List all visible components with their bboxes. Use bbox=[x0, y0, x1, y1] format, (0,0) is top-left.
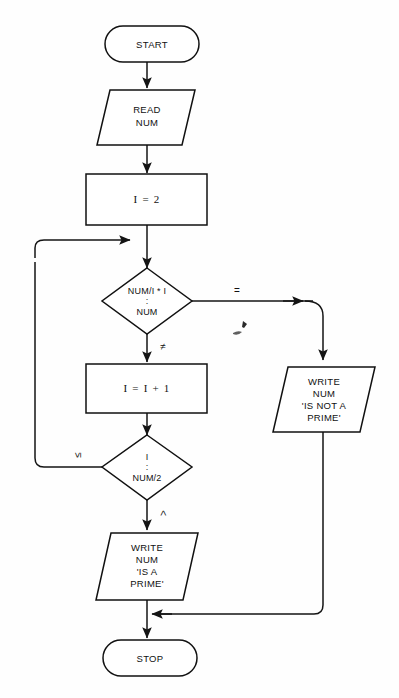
node-write-not-prime-line-4: PRIME' bbox=[307, 412, 341, 423]
node-write-is-prime-line-1: WRITE bbox=[131, 542, 163, 553]
node-compare-num-div-line-2: : bbox=[146, 296, 149, 306]
node-start-label: START bbox=[136, 39, 168, 50]
node-start[interactable]: START bbox=[105, 26, 199, 62]
edge-loopback-join bbox=[35, 240, 130, 258]
flowchart-canvas: START READ NUM I = 2 NUM/I * I : NUM = ≠… bbox=[0, 0, 399, 698]
node-write-is-prime-line-2: NUM bbox=[136, 554, 159, 565]
node-write-is-prime-line-3: 'IS A bbox=[137, 566, 158, 577]
node-compare-i-half[interactable]: I : NUM/2 bbox=[102, 435, 192, 500]
node-write-is-prime-line-4: PRIME' bbox=[130, 578, 164, 589]
branch-label-equal: = bbox=[234, 285, 240, 296]
node-write-not-prime-line-3: 'IS NOT A bbox=[302, 400, 347, 411]
node-init-i[interactable]: I = 2 bbox=[86, 174, 207, 225]
node-increment-i-label: I = I + 1 bbox=[123, 382, 170, 394]
node-compare-i-half-line-2: : bbox=[146, 462, 149, 472]
branch-label-greater: > bbox=[158, 510, 169, 516]
node-compare-num-div-line-3: NUM bbox=[136, 307, 157, 317]
node-stop-label: STOP bbox=[137, 653, 164, 664]
node-compare-i-half-line-3: NUM/2 bbox=[132, 473, 161, 483]
node-stop[interactable]: STOP bbox=[103, 640, 197, 676]
branch-label-not-equal: ≠ bbox=[160, 341, 166, 352]
node-write-not-prime-line-1: WRITE bbox=[308, 376, 340, 387]
flowchart-svg: START READ NUM I = 2 NUM/I * I : NUM = ≠… bbox=[0, 0, 399, 698]
node-compare-num-div-line-1: NUM/I * I bbox=[128, 286, 166, 296]
node-increment-i[interactable]: I = I + 1 bbox=[86, 364, 207, 413]
node-write-not-prime[interactable]: WRITE NUM 'IS NOT A PRIME' bbox=[273, 367, 375, 432]
node-compare-i-half-line-1: I bbox=[146, 452, 149, 462]
node-read-num[interactable]: READ NUM bbox=[97, 90, 195, 145]
node-init-i-label: I = 2 bbox=[134, 193, 161, 205]
node-write-is-prime[interactable]: WRITE NUM 'IS A PRIME' bbox=[96, 533, 198, 600]
node-read-num-line-1: READ bbox=[133, 104, 161, 115]
scan-artifact bbox=[233, 321, 247, 335]
edge-decision-equal-branch bbox=[192, 301, 323, 360]
node-read-num-line-2: NUM bbox=[136, 117, 159, 128]
node-write-not-prime-line-2: NUM bbox=[313, 388, 336, 399]
node-compare-num-div[interactable]: NUM/I * I : NUM bbox=[102, 268, 192, 334]
branch-label-less-or-equal: ≤ bbox=[72, 452, 83, 458]
